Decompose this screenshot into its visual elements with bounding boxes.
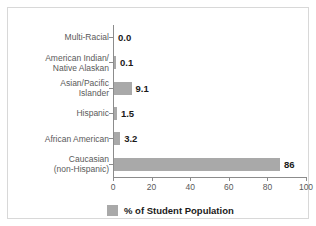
x-tick-mark — [113, 177, 114, 181]
bar — [114, 132, 120, 145]
bar-row: 9.1 — [113, 76, 306, 101]
x-tick-label: 20 — [137, 182, 167, 193]
category-label: Asian/Pacific Islander — [13, 78, 109, 99]
x-tick-mark — [190, 177, 191, 181]
y-tick-mark — [109, 113, 113, 114]
bar-row: 1.5 — [113, 101, 306, 126]
bar — [114, 158, 280, 171]
y-axis-labels: Multi-RacialAmerican Indian/ Native Alas… — [8, 25, 109, 177]
bar — [114, 56, 116, 69]
bar-value-label: 86 — [284, 158, 295, 171]
chart-frame: Multi-RacialAmerican Indian/ Native Alas… — [7, 7, 309, 219]
x-tick-mark — [152, 177, 153, 181]
y-tick-mark — [109, 138, 113, 139]
x-tick-label: 100 — [291, 182, 316, 193]
category-label: American Indian/ Native Alaskan — [13, 53, 109, 74]
legend-label: % of Student Population — [124, 205, 234, 216]
category-label: Multi-Racial — [13, 32, 109, 43]
category-label: African American — [13, 134, 109, 145]
x-tick-mark — [267, 177, 268, 181]
legend-swatch-icon — [107, 205, 118, 216]
x-tick-label: 80 — [252, 182, 282, 193]
bar-value-label: 0.1 — [120, 56, 133, 69]
x-tick-label: 0 — [98, 182, 128, 193]
chart-figure: Multi-RacialAmerican Indian/ Native Alas… — [0, 0, 316, 226]
y-tick-mark — [109, 164, 113, 165]
bar-row: 0.0 — [113, 25, 306, 50]
category-label: Caucasian (non-Hispanic) — [13, 154, 109, 175]
bar-value-label: 9.1 — [136, 82, 149, 95]
y-tick-mark — [109, 62, 113, 63]
bar-row: 86 — [113, 152, 306, 177]
x-tick-mark — [229, 177, 230, 181]
bar — [114, 82, 132, 95]
plot-area: 0.00.19.11.53.286 — [113, 25, 306, 177]
bar-row: 3.2 — [113, 126, 306, 151]
x-tick-label: 60 — [214, 182, 244, 193]
bar-value-label: 1.5 — [121, 107, 134, 120]
category-label: Hispanic — [13, 108, 109, 119]
x-axis-ticks: 020406080100 — [113, 177, 307, 195]
bar — [114, 107, 117, 120]
y-tick-mark — [109, 88, 113, 89]
x-tick-mark — [306, 177, 307, 181]
x-tick-label: 40 — [175, 182, 205, 193]
y-tick-mark — [109, 37, 113, 38]
bar-value-label: 3.2 — [124, 132, 137, 145]
bar-row: 0.1 — [113, 50, 306, 75]
chart-legend: % of Student Population — [107, 202, 234, 218]
bar-value-label: 0.0 — [118, 31, 131, 44]
